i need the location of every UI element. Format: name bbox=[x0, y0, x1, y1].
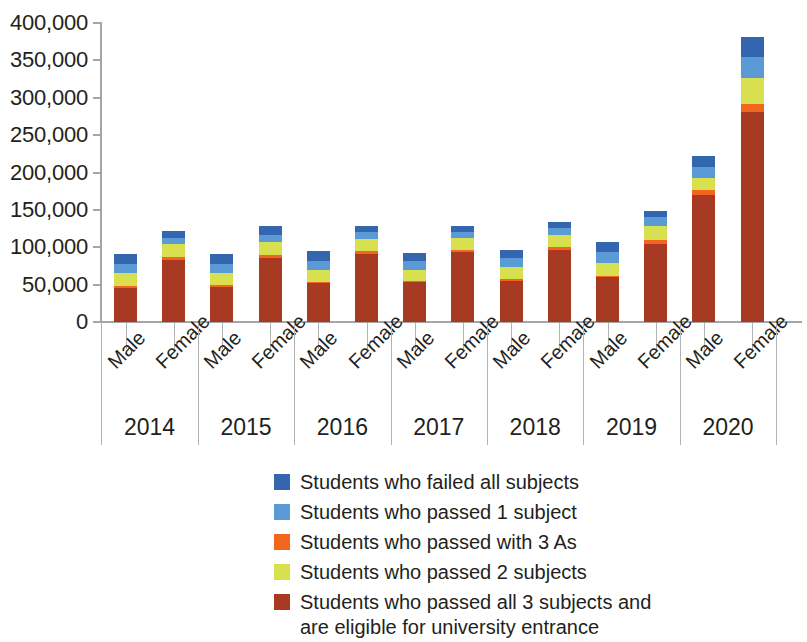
bar-segment bbox=[307, 251, 330, 261]
y-axis-tick-label: 150,000 bbox=[10, 199, 88, 221]
legend-item[interactable]: Students who passed with 3 As bbox=[274, 530, 651, 555]
y-axis-tick-label: 300,000 bbox=[10, 87, 88, 109]
bar-segment bbox=[451, 232, 474, 239]
bar-segment bbox=[114, 264, 137, 273]
y-axis-tick bbox=[93, 321, 101, 323]
y-axis-tick-label: 100,000 bbox=[10, 236, 88, 258]
bar-segment bbox=[355, 226, 378, 233]
year-axis-label: 2017 bbox=[391, 415, 487, 439]
year-group-separator bbox=[776, 323, 777, 445]
bar-segment bbox=[259, 226, 282, 234]
bar-segment bbox=[355, 254, 378, 322]
y-axis-tick bbox=[93, 246, 101, 248]
legend-item-label: Students who failed all subjects bbox=[300, 470, 579, 495]
bar-stack bbox=[500, 250, 523, 322]
legend-item-label: Students who passed all 3 subjects and a… bbox=[300, 590, 651, 640]
bar-stack bbox=[403, 253, 426, 322]
y-axis-tick-label: 0 bbox=[76, 311, 88, 333]
bar-segment bbox=[596, 263, 619, 276]
bar-segment bbox=[114, 273, 137, 286]
y-axis-tick-label: 350,000 bbox=[10, 49, 88, 71]
bar-segment bbox=[355, 239, 378, 251]
y-axis-tick-label: 250,000 bbox=[10, 124, 88, 146]
bar-segment bbox=[596, 242, 619, 252]
bar-segment bbox=[644, 226, 667, 240]
legend-item-label: Students who passed 2 subjects bbox=[300, 560, 587, 585]
bar-stack bbox=[596, 242, 619, 322]
year-axis-label: 2019 bbox=[584, 415, 680, 439]
bar-segment bbox=[692, 156, 715, 166]
year-axis-label: 2020 bbox=[680, 415, 776, 439]
bar-segment bbox=[644, 211, 667, 218]
bar-stack bbox=[259, 226, 282, 322]
bar-segment bbox=[162, 231, 185, 238]
bar-segment bbox=[162, 260, 185, 322]
legend-item[interactable]: Students who passed 1 subject bbox=[274, 500, 651, 525]
bar-segment bbox=[644, 244, 667, 322]
gender-axis-label: Male bbox=[296, 327, 341, 372]
bar-stack bbox=[741, 37, 764, 322]
legend-item[interactable]: Students who passed all 3 subjects and a… bbox=[274, 590, 651, 640]
bar-segment bbox=[548, 228, 571, 235]
bar-segment bbox=[114, 254, 137, 264]
bar-segment bbox=[162, 244, 185, 257]
bar-segment bbox=[451, 238, 474, 249]
bar-segment bbox=[548, 235, 571, 247]
bar-segment bbox=[741, 112, 764, 322]
bar-segment bbox=[403, 282, 426, 322]
bar-segment bbox=[451, 252, 474, 322]
bars-layer bbox=[101, 23, 801, 322]
bar-segment bbox=[548, 250, 571, 323]
bar-segment bbox=[210, 273, 233, 285]
bar-segment bbox=[307, 261, 330, 270]
bar-segment bbox=[403, 253, 426, 261]
legend-item[interactable]: Students who failed all subjects bbox=[274, 470, 651, 495]
y-axis-tick bbox=[93, 59, 101, 61]
year-axis-label: 2014 bbox=[102, 415, 198, 439]
legend-color-swatch bbox=[274, 504, 290, 520]
bar-segment bbox=[596, 252, 619, 263]
bar-segment bbox=[692, 195, 715, 322]
bar-segment bbox=[259, 258, 282, 322]
bar-segment bbox=[741, 37, 764, 56]
gender-axis-label: Male bbox=[103, 327, 148, 372]
bar-segment bbox=[692, 178, 715, 190]
bar-stack bbox=[451, 226, 474, 322]
bar-segment bbox=[500, 258, 523, 267]
bar-segment bbox=[500, 250, 523, 259]
bar-stack bbox=[548, 222, 571, 322]
bar-stack bbox=[692, 156, 715, 322]
bar-segment bbox=[162, 238, 185, 245]
bar-segment bbox=[741, 104, 764, 111]
legend-color-swatch bbox=[274, 564, 290, 580]
y-axis-tick bbox=[93, 22, 101, 24]
legend-color-swatch bbox=[274, 594, 290, 610]
bar-segment bbox=[210, 254, 233, 264]
legend-item-label: Students who passed with 3 As bbox=[300, 530, 577, 555]
y-axis-tick bbox=[93, 209, 101, 211]
bar-segment bbox=[596, 277, 619, 322]
legend-item-label: Students who passed 1 subject bbox=[300, 500, 577, 525]
gender-axis-label: Male bbox=[393, 327, 438, 372]
bar-segment bbox=[114, 288, 137, 322]
bar-segment bbox=[644, 217, 667, 225]
gender-axis-label: Male bbox=[489, 327, 534, 372]
y-axis-tick bbox=[93, 284, 101, 286]
bar-stack bbox=[114, 254, 137, 322]
bar-stack bbox=[307, 251, 330, 322]
bar-segment bbox=[403, 261, 426, 269]
bar-segment bbox=[692, 167, 715, 178]
bar-segment bbox=[259, 242, 282, 255]
bar-segment bbox=[741, 78, 764, 105]
legend-color-swatch bbox=[274, 534, 290, 550]
year-axis-label: 2015 bbox=[198, 415, 294, 439]
gender-axis-label: Male bbox=[585, 327, 630, 372]
bar-segment bbox=[210, 264, 233, 273]
y-axis-tick-label: 200,000 bbox=[10, 162, 88, 184]
bar-stack bbox=[210, 254, 233, 322]
y-axis-tick-label: 400,000 bbox=[10, 12, 88, 34]
bar-stack bbox=[644, 211, 667, 322]
y-axis-tick-label: 50,000 bbox=[22, 274, 88, 296]
legend-item[interactable]: Students who passed 2 subjects bbox=[274, 560, 651, 585]
bar-segment bbox=[307, 283, 330, 322]
